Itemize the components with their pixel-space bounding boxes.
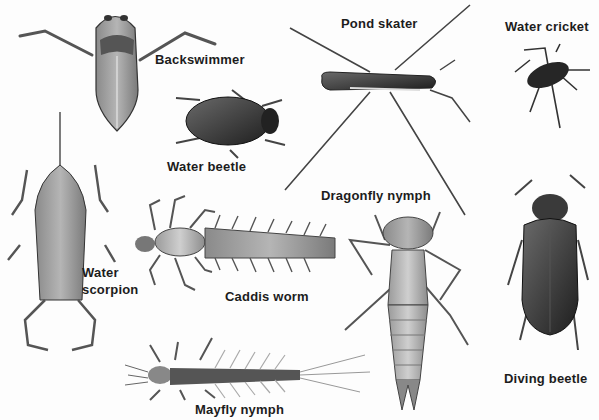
label-pond-skater: Pond skater (341, 17, 418, 31)
label-water-scorpion-line2: scorpion (82, 283, 139, 297)
label-water-scorpion-line1: Water (82, 266, 119, 280)
label-caddis-worm: Caddis worm (225, 290, 309, 304)
label-diving-beetle: Diving beetle (504, 372, 588, 386)
label-backswimmer: Backswimmer (155, 53, 245, 67)
pond-skater-drawing (285, 5, 470, 215)
caddis-worm-drawing (135, 196, 335, 290)
label-water-cricket: Water cricket (505, 20, 589, 34)
backswimmer-drawing (20, 15, 215, 131)
label-water-beetle: Water beetle (167, 160, 246, 174)
mayfly-nymph-drawing (125, 338, 370, 400)
diving-beetle-drawing (508, 175, 588, 350)
water-scorpion-drawing (8, 112, 115, 350)
pond-insects-illustration: Backswimmer Water beetle Pond skater Wat… (0, 0, 599, 420)
insect-drawings (0, 0, 599, 420)
water-cricket-drawing (515, 44, 590, 128)
water-beetle-drawing (176, 90, 285, 158)
label-mayfly-nymph: Mayfly nymph (195, 403, 284, 417)
dragonfly-nymph-drawing (345, 212, 468, 410)
label-dragonfly-nymph: Dragonfly nymph (321, 189, 431, 203)
